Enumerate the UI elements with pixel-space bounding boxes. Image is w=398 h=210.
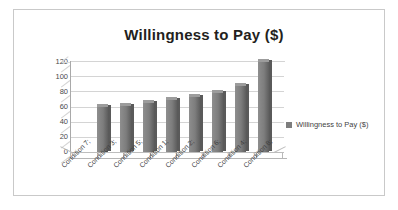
- x-tick: [282, 153, 283, 158]
- bar-side-face: [200, 95, 203, 151]
- y-tick-label: 20: [42, 132, 68, 141]
- chart-frame: Willingness to Pay ($) 120 100 80 60 40 …: [13, 9, 385, 196]
- bar-top-face: [166, 97, 177, 100]
- y-tick-label: 40: [42, 117, 68, 126]
- bar-top-face: [189, 94, 200, 97]
- bar-series: [70, 61, 284, 153]
- bar-top-face: [235, 83, 246, 86]
- x-axis-category-labels: Condition 7; Condition 3; Condition 5; C…: [38, 162, 298, 210]
- bar-top-face: [212, 90, 223, 93]
- bar-top-face: [97, 104, 108, 107]
- bar-side-face: [177, 98, 180, 151]
- bar-side-face: [223, 91, 226, 151]
- legend-swatch-icon: [286, 122, 292, 128]
- y-tick-label: 80: [42, 87, 68, 96]
- y-tick-label: 100: [42, 72, 68, 81]
- bar-top-face: [120, 103, 131, 106]
- chart-screenshot: Willingness to Pay ($) 120 100 80 60 40 …: [0, 0, 398, 210]
- legend-label: Willingness to Pay ($): [296, 120, 369, 129]
- y-tick-label: 60: [42, 102, 68, 111]
- bar-side-face: [269, 60, 272, 151]
- chart-legend: Willingness to Pay ($): [286, 120, 369, 129]
- chart-title: Willingness to Pay ($): [74, 26, 334, 43]
- bar-top-face: [258, 59, 269, 62]
- bar-top-face: [143, 100, 154, 103]
